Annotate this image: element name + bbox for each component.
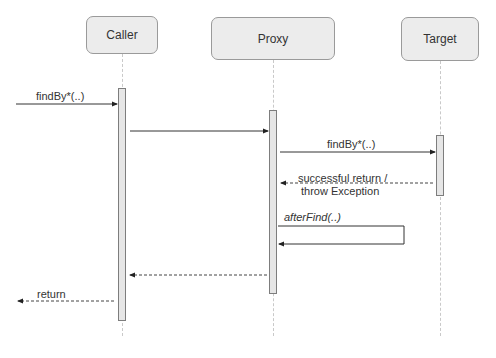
label-findby-caller: findBy*(..) bbox=[36, 90, 84, 102]
label-return-line2: throw Exception bbox=[301, 185, 379, 197]
label-return: return bbox=[37, 288, 66, 300]
msg-proxy-self-call bbox=[278, 226, 404, 244]
label-findby-target: findBy*(..) bbox=[327, 138, 375, 150]
label-return-line1: successful return / bbox=[298, 172, 387, 184]
message-arrows bbox=[0, 0, 496, 358]
label-afterfind: afterFind(..) bbox=[284, 211, 341, 223]
